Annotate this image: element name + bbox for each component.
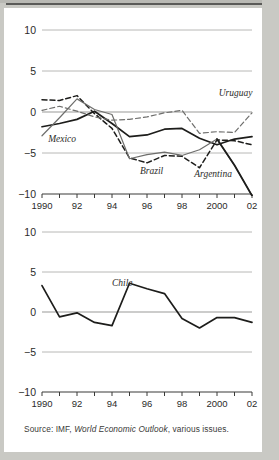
x-tick-label: 92 xyxy=(72,398,83,409)
line-chart-latin-america: 1050−5−10199092949698200002MexicoBrazilU… xyxy=(0,12,258,217)
y-tick-label: 10 xyxy=(24,226,36,238)
page-right-margin xyxy=(262,0,279,460)
x-tick-label: 98 xyxy=(177,200,188,211)
series-line-chile xyxy=(42,283,252,328)
y-tick-label: −5 xyxy=(24,346,36,358)
y-tick-label: 0 xyxy=(30,306,36,318)
series-label-uruguay: Uruguay xyxy=(219,88,254,98)
x-tick-label: 96 xyxy=(142,200,153,211)
x-tick-label: 94 xyxy=(107,398,118,409)
series-label-chile: Chile xyxy=(112,278,133,288)
x-tick-label: 96 xyxy=(142,398,153,409)
y-tick-label: 0 xyxy=(30,106,36,118)
y-tick-label: 10 xyxy=(24,24,36,36)
line-chart-chile: 1050−5−10199092949698200002Chile xyxy=(0,222,258,410)
y-tick-label: −10 xyxy=(18,188,36,200)
series-label-argentina: Argentina xyxy=(193,169,232,179)
x-tick-label: 94 xyxy=(107,200,118,211)
figure-top-rule xyxy=(6,3,271,5)
x-tick-label: 02 xyxy=(247,398,258,409)
y-tick-label: 5 xyxy=(30,266,36,278)
figure-page: 1050−5−10199092949698200002MexicoBrazilU… xyxy=(0,0,279,460)
source-note-title: World Economic Outlook xyxy=(74,424,168,434)
y-tick-label: 5 xyxy=(30,65,36,77)
x-tick-label: 2000 xyxy=(206,200,227,211)
x-tick-label: 2000 xyxy=(206,398,227,409)
x-tick-label: 1990 xyxy=(31,200,52,211)
chart-panel-bottom: 1050−5−10199092949698200002Chile xyxy=(0,222,258,410)
series-label-brazil: Brazil xyxy=(140,166,164,176)
source-note: Source: IMF, World Economic Outlook, var… xyxy=(24,424,254,434)
x-tick-label: 92 xyxy=(72,200,83,211)
x-tick-label: 1990 xyxy=(31,398,52,409)
y-tick-label: −10 xyxy=(18,386,36,398)
source-note-prefix: Source: IMF, xyxy=(24,424,72,434)
x-tick-label: 02 xyxy=(247,200,258,211)
series-line-argentina xyxy=(42,99,252,196)
x-tick-label: 98 xyxy=(177,398,188,409)
source-note-suffix: , various issues. xyxy=(168,424,229,434)
series-label-mexico: Mexico xyxy=(47,134,76,144)
page-bottom-margin xyxy=(0,452,279,460)
series-line-argentina-tail xyxy=(217,139,252,196)
chart-panel-top: 1050−5−10199092949698200002MexicoBrazilU… xyxy=(0,12,258,217)
y-tick-label: −5 xyxy=(24,147,36,159)
